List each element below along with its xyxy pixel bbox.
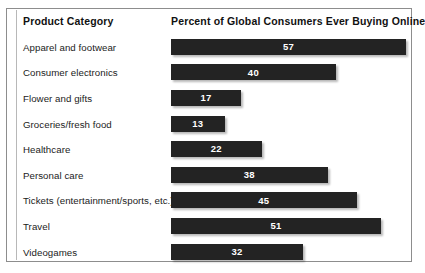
category-label: Healthcare: [23, 144, 70, 155]
bar-value-label: 13: [192, 119, 203, 129]
category-label: Flower and gifts: [23, 92, 92, 103]
bar-track: 22: [171, 141, 407, 157]
bar: 40: [171, 64, 336, 80]
bar-value-label: 51: [271, 221, 282, 231]
bar-value-label: 17: [200, 93, 211, 103]
bar-value-label: 45: [258, 196, 269, 206]
category-label: Videogames: [23, 246, 77, 257]
category-label: Personal care: [23, 169, 83, 180]
chart-row: Healthcare22: [7, 136, 411, 162]
bar-track: 57: [171, 39, 407, 55]
bar-value-label: 32: [231, 247, 242, 257]
table-header-row: Product Category Percent of Global Consu…: [7, 9, 411, 34]
bar: 57: [171, 39, 406, 55]
bar-track: 13: [171, 116, 407, 132]
chart-row: Videogames32: [7, 239, 411, 265]
column-header-product-category: Product Category: [23, 15, 114, 27]
bar-value-label: 57: [283, 42, 294, 52]
bar: 51: [171, 218, 381, 234]
bar-track: 51: [171, 218, 407, 234]
bar-value-label: 40: [248, 68, 259, 78]
chart-row: Consumer electronics40: [7, 60, 411, 86]
bar: 13: [171, 116, 225, 132]
category-label: Travel: [23, 220, 50, 231]
chart-row: Apparel and footwear57: [7, 34, 411, 60]
bar: 45: [171, 192, 357, 208]
category-label: Consumer electronics: [23, 67, 118, 78]
column-header-percent: Percent of Global Consumers Ever Buying …: [171, 15, 425, 27]
chart-frame: Product Category Percent of Global Consu…: [6, 8, 412, 262]
chart-row: Personal care38: [7, 162, 411, 188]
bar-track: 45: [171, 192, 407, 208]
bar: 32: [171, 244, 303, 260]
bar-track: 38: [171, 167, 407, 183]
bar-track: 17: [171, 90, 407, 106]
bar-value-label: 38: [244, 170, 255, 180]
chart-row: Flower and gifts17: [7, 85, 411, 111]
category-label: Groceries/fresh food: [23, 118, 112, 129]
chart-row: Groceries/fresh food13: [7, 111, 411, 137]
chart-row: Travel51: [7, 213, 411, 239]
bar-track: 40: [171, 64, 407, 80]
chart-rows: Apparel and footwear57Consumer electroni…: [7, 34, 411, 261]
bar-track: 32: [171, 244, 407, 260]
category-label: Apparel and footwear: [23, 41, 116, 52]
chart-row: Tickets (entertainment/sports, etc.)45: [7, 188, 411, 214]
bar: 38: [171, 167, 328, 183]
bar-value-label: 22: [211, 144, 222, 154]
bar: 22: [171, 141, 262, 157]
bar: 17: [171, 90, 241, 106]
category-label: Tickets (entertainment/sports, etc.): [23, 195, 174, 206]
